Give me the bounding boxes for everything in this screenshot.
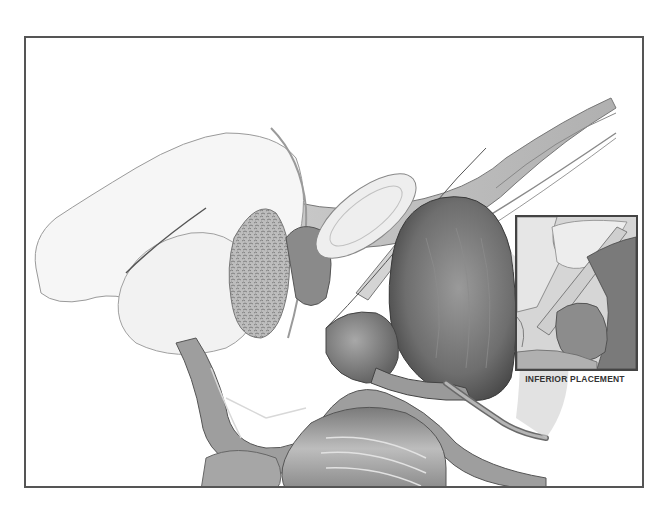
inset-panel bbox=[515, 215, 638, 371]
inset-caption: INFERIOR PLACEMENT bbox=[505, 374, 644, 384]
bladder bbox=[389, 197, 516, 401]
prostate bbox=[326, 312, 398, 383]
inset-illustration bbox=[517, 217, 636, 369]
illustration-frame: INFERIOR PLACEMENT bbox=[24, 36, 644, 488]
